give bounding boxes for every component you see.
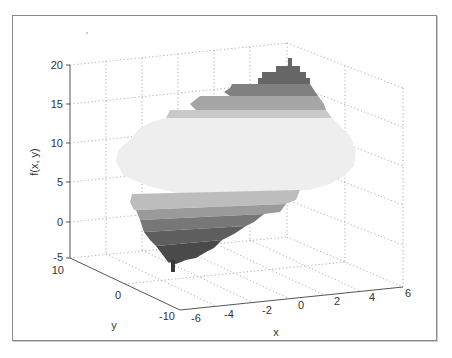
x-tick-neg4: -4 (224, 308, 234, 320)
z-tick-neg5: -5 (53, 251, 63, 263)
x-tick-neg6: -6 (191, 312, 201, 324)
surface-plot: 20 15 10 5 0 -5 10 0 -10 -6 -4 -2 0 2 4 … (0, 0, 452, 358)
x-axis-label: x (273, 326, 279, 338)
z-axis-label: f(x, y) (28, 148, 40, 176)
x-tick-4: 4 (369, 291, 375, 303)
y-tick-0: 0 (115, 289, 121, 301)
z-tick-15: 15 (51, 98, 63, 110)
surface (116, 58, 356, 272)
z-tick-10: 10 (51, 137, 63, 149)
x-tick-0: 0 (298, 299, 304, 311)
ticks (66, 65, 70, 258)
y-tick-neg10: -10 (159, 310, 175, 322)
y-tick-labels: 10 0 -10 (52, 264, 175, 322)
z-tick-20: 20 (51, 59, 63, 71)
stray-dot (86, 32, 88, 34)
x-tick-neg2: -2 (262, 304, 272, 316)
x-tick-2: 2 (334, 295, 340, 307)
z-tick-labels: 20 15 10 5 0 -5 (51, 59, 63, 263)
y-axis-label: y (111, 319, 117, 331)
z-tick-0: 0 (57, 216, 63, 228)
x-tick-6: 6 (405, 287, 411, 299)
z-tick-5: 5 (57, 176, 63, 188)
y-tick-10: 10 (52, 264, 64, 276)
